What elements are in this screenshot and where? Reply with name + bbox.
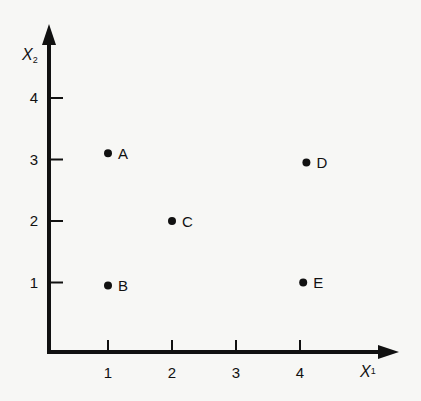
scatter-chart: 1234 1234 ABCDE X2 X1 (0, 0, 421, 401)
x-axis-label: X1 (359, 363, 376, 380)
point-label-d: D (316, 154, 327, 171)
x-tick-label: 2 (168, 364, 176, 381)
y-ticks: 1234 (30, 89, 63, 291)
y-tick-label: 2 (30, 212, 38, 229)
data-points: ABCDE (104, 145, 327, 294)
x-ticks: 1234 (104, 340, 304, 381)
data-point-d (302, 159, 310, 167)
y-tick-label: 4 (30, 89, 38, 106)
data-point-b (104, 282, 112, 290)
x-axis-arrow-icon (378, 345, 399, 359)
data-point-e (299, 279, 307, 287)
point-label-a: A (118, 145, 128, 162)
x-tick-label: 1 (104, 364, 112, 381)
data-point-a (104, 149, 112, 157)
y-tick-label: 1 (30, 274, 38, 291)
y-tick-label: 3 (30, 151, 38, 168)
x-tick-label: 3 (232, 364, 240, 381)
point-label-c: C (182, 213, 193, 230)
point-label-e: E (313, 274, 323, 291)
point-label-b: B (118, 277, 128, 294)
x-tick-label: 4 (296, 364, 304, 381)
y-axis-arrow-icon (42, 24, 56, 45)
y-axis-label: X2 (21, 46, 38, 65)
data-point-c (168, 217, 176, 225)
